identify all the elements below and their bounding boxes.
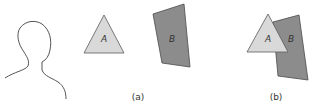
triangle-a-overlap-label: A [264, 34, 271, 44]
head-silhouette-icon [5, 21, 66, 99]
figure: A B (a) B A (b) [0, 0, 316, 107]
quad-b-overlap-label: B [288, 34, 294, 44]
diagram-canvas: A B (a) B A (b) [0, 0, 316, 107]
triangle-a-label: A [100, 34, 107, 44]
caption-a: (a) [132, 92, 145, 102]
caption-b: (b) [270, 92, 283, 102]
quad-b-label: B [169, 34, 175, 44]
